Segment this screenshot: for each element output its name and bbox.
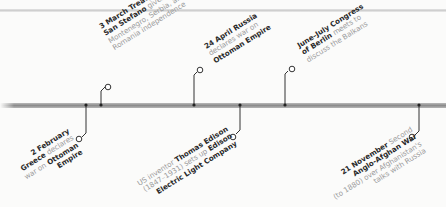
timeline-dot-icon xyxy=(283,103,286,106)
circle-marker-icon xyxy=(197,67,203,73)
connector-afghan xyxy=(415,105,419,135)
connector-san-stefano xyxy=(101,87,105,105)
timeline-dot-icon xyxy=(192,103,195,106)
circle-marker-icon xyxy=(289,66,295,72)
timeline-dot-icon xyxy=(99,103,102,106)
circle-marker-icon xyxy=(105,84,111,90)
connector-edison xyxy=(236,105,240,134)
timeline-dot-icon xyxy=(238,103,241,106)
timeline-dot-icon xyxy=(417,103,420,106)
connector-greece xyxy=(82,105,86,137)
connector-russia xyxy=(194,72,197,105)
connector-congress xyxy=(285,71,288,105)
timeline-dot-icon xyxy=(84,103,87,106)
circle-marker-icon xyxy=(76,136,82,142)
